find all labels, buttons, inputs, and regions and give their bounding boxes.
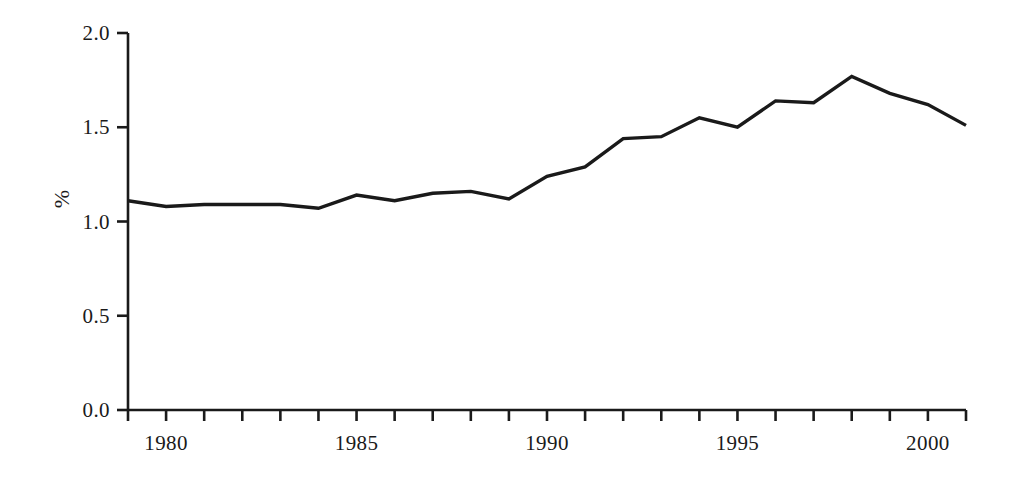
y-tick-label: 0.0 <box>83 398 110 423</box>
line-chart-plot <box>0 0 1016 483</box>
y-tick-label: 1.0 <box>83 209 110 234</box>
y-tick-label: 2.0 <box>83 21 110 46</box>
y-tick-label: 0.5 <box>83 303 110 328</box>
series-line-0 <box>128 76 966 208</box>
chart-figure: 0.00.51.01.52.0 19801985199019952000 % <box>0 0 1016 483</box>
chart-axes <box>128 33 966 410</box>
axis-tick-marks <box>117 33 966 421</box>
x-tick-label: 1995 <box>716 431 760 456</box>
y-tick-label: 1.5 <box>83 115 110 140</box>
data-series-lines <box>128 76 966 208</box>
x-tick-label: 2000 <box>906 431 950 456</box>
x-tick-label: 1980 <box>144 431 188 456</box>
x-tick-label: 1985 <box>335 431 379 456</box>
x-tick-label: 1990 <box>525 431 569 456</box>
y-axis-title: % <box>49 190 75 208</box>
